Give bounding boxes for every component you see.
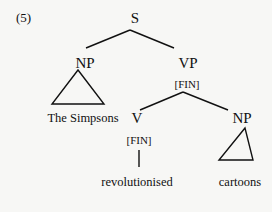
word-verb: revolutionised xyxy=(101,175,173,189)
edge-vp-np xyxy=(183,92,228,110)
node-s: S xyxy=(131,10,139,26)
edge-s-np xyxy=(86,30,130,48)
node-np-subject: NP xyxy=(75,55,94,71)
syntax-tree: (5) S NP The Simpsons VP [FIN] V [FIN] r… xyxy=(0,0,272,212)
node-v: V xyxy=(132,110,143,126)
example-number: (5) xyxy=(16,10,31,25)
edge-s-vp xyxy=(130,30,174,48)
node-np-object: NP xyxy=(232,110,251,126)
edge-vp-v xyxy=(140,92,183,110)
yield-subject: The Simpsons xyxy=(47,111,118,125)
yield-object: cartoons xyxy=(219,175,261,189)
feature-vp: [FIN] xyxy=(174,78,199,90)
triangle-roof-subject xyxy=(52,70,104,104)
feature-v: [FIN] xyxy=(126,134,151,146)
node-vp: VP xyxy=(178,55,197,71)
triangle-roof-object xyxy=(219,128,253,160)
